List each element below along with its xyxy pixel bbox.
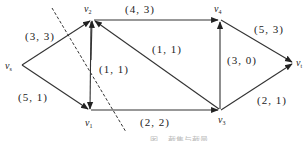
flow-network-diagram: vs v2 v1 v4 v3 vt (3, 3) (5, 1) (1, 1) (… xyxy=(0,0,305,141)
label-vs-v1: (5, 1) xyxy=(18,91,48,104)
node-vt: vt xyxy=(296,57,302,69)
label-v3-v4: (3, 0) xyxy=(227,54,257,67)
figure-caption: 图 ... 截集与截量 xyxy=(150,135,208,141)
label-v2-v4: (4, 3) xyxy=(125,3,155,16)
edge-vs-v2 xyxy=(22,21,90,65)
label-v3-vt: (2, 1) xyxy=(257,94,287,107)
node-v3: v3 xyxy=(218,114,225,126)
node-v2: v2 xyxy=(84,3,91,15)
label-vs-v2: (3, 3) xyxy=(25,30,55,43)
label-v3-v2: (1, 1) xyxy=(152,43,182,56)
label-v1-v3: (2, 2) xyxy=(140,116,170,129)
node-vs: vs xyxy=(5,60,12,72)
edge-v2-v1 xyxy=(90,22,91,109)
node-v1: v1 xyxy=(85,117,92,129)
label-v2-v1: (1, 1) xyxy=(99,63,129,76)
label-v4-vt: (5, 3) xyxy=(254,23,284,36)
node-v4: v4 xyxy=(214,3,221,15)
